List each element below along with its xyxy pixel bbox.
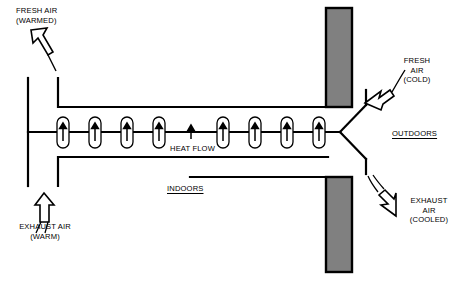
- lower-wall: [326, 177, 352, 272]
- label-outdoors: OUTDOORS: [392, 129, 437, 139]
- hollow-arrow-down-right-icon: [379, 190, 396, 216]
- hollow-arrow-up-icon: [35, 193, 54, 222]
- heat-flow-capsule: [313, 117, 325, 148]
- outdoor-upper-diagonal: [340, 105, 366, 132]
- diagram-canvas: [0, 0, 461, 284]
- heat-flow-capsule: [89, 117, 101, 148]
- hollow-arrow-down-left-icon: [365, 90, 394, 110]
- exhaust-air-cooled-tail: [368, 175, 384, 192]
- heat-flow-capsule: [153, 117, 165, 148]
- heat-flow-capsule: [281, 117, 293, 148]
- duct-upper-outline: [58, 78, 328, 107]
- label-fresh-air-warmed: FRESH AIR (WARMED): [16, 6, 57, 25]
- label-exhaust-air-warm: EXHAUST AIR (WARM): [6, 222, 84, 241]
- label-heat-flow: HEAT FLOW: [170, 144, 215, 154]
- heat-flow-capsule: [249, 117, 261, 148]
- fresh-air-warmed-tail: [48, 55, 56, 71]
- heat-flow-capsule: [57, 117, 69, 148]
- heat-flow-capsule: [217, 117, 229, 148]
- heat-flow-capsule: [121, 117, 133, 148]
- label-indoors: INDOORS: [167, 184, 204, 194]
- heat-exchanger-diagram: FRESH AIR (WARMED) EXHAUST AIR (WARM) FR…: [0, 0, 461, 284]
- upper-wall: [326, 8, 352, 107]
- label-exhaust-air-cooled: EXHAUST AIR (COOLED): [400, 196, 458, 225]
- outdoor-lower-diagonal: [340, 132, 366, 159]
- hollow-arrow-up-left-icon: [31, 28, 53, 55]
- duct-lower-outline: [58, 157, 328, 186]
- label-fresh-air-cold: FRESH AIR (COLD): [390, 56, 444, 85]
